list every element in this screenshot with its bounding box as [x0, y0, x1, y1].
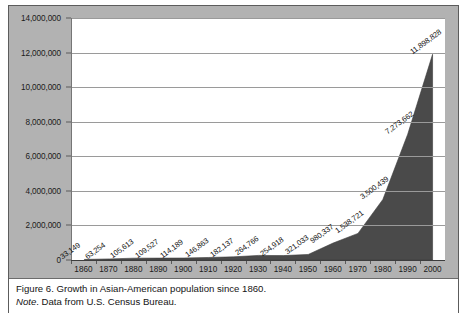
gridline: [72, 122, 445, 123]
x-axis-tick-mark: [221, 261, 222, 264]
note-text: . Data from U.S. Census Bureau.: [36, 296, 176, 307]
y-axis-tick-label: 2,000,000: [25, 221, 61, 230]
x-axis-tick-label: 2000: [423, 265, 441, 274]
x-axis-tick-label: 1890: [149, 265, 167, 274]
x-axis-tick-mark: [345, 261, 346, 264]
x-axis-tick-label: 1910: [199, 265, 217, 274]
x-axis-tick-mark: [146, 261, 147, 264]
gridline: [72, 225, 445, 226]
y-axis: 14,000,00012,000,00010,000,0008,000,0006…: [9, 6, 71, 279]
x-axis-tick-label: 1860: [74, 265, 92, 274]
plot-area: [71, 18, 445, 260]
y-axis-tick-label: 6,000,000: [25, 152, 61, 161]
x-axis-tick-label: 1990: [398, 265, 416, 274]
x-axis-tick-mark: [370, 261, 371, 264]
figure-caption: Figure 6. Growth in Asian-American popul…: [9, 279, 458, 313]
y-axis-tick-label: 0: [57, 256, 61, 265]
gridline: [72, 156, 445, 157]
x-axis-tick-label: 1950: [299, 265, 317, 274]
y-axis-tick-label: 8,000,000: [25, 117, 61, 126]
gridline: [72, 18, 445, 19]
x-axis-tick-label: 1920: [224, 265, 242, 274]
x-axis-tick-mark: [96, 261, 97, 264]
x-axis-tick-mark: [171, 261, 172, 264]
y-axis-tick-label: 4,000,000: [25, 186, 61, 195]
y-axis-tick-label: 12,000,000: [21, 48, 61, 57]
x-axis-tick-label: 1960: [324, 265, 342, 274]
x-axis-tick-label: 1930: [249, 265, 267, 274]
x-axis: 1860187018801890190019101920193019401950…: [71, 261, 445, 279]
y-axis-tick-label: 14,000,000: [21, 14, 61, 23]
x-axis-tick-mark: [270, 261, 271, 264]
note-label: Note: [16, 296, 36, 307]
x-axis-tick-label: 1970: [349, 265, 367, 274]
x-axis-tick-mark: [420, 261, 421, 264]
x-axis-tick-mark: [320, 261, 321, 264]
x-axis-tick-label: 1900: [174, 265, 192, 274]
chart-plate: 14,000,00012,000,00010,000,0008,000,0006…: [9, 6, 458, 279]
gridline: [72, 53, 445, 54]
x-axis-tick-mark: [295, 261, 296, 264]
x-axis-tick-label: 1870: [99, 265, 117, 274]
area-series: [72, 18, 445, 260]
caption-line-1: Figure 6. Growth in Asian-American popul…: [16, 283, 458, 296]
x-axis-tick-mark: [196, 261, 197, 264]
x-axis-tick-mark: [71, 261, 72, 264]
gridline: [72, 87, 445, 88]
x-axis-tick-mark: [395, 261, 396, 264]
figure-frame: 14,000,00012,000,00010,000,0008,000,0006…: [8, 5, 459, 313]
caption-line-2: Note. Data from U.S. Census Bureau.: [16, 296, 458, 309]
gridline: [72, 191, 445, 192]
x-axis-tick-label: 1880: [124, 265, 142, 274]
x-axis-tick-label: 1940: [274, 265, 292, 274]
x-axis-tick-label: 1980: [374, 265, 392, 274]
x-axis-tick-mark: [121, 261, 122, 264]
x-axis-tick-mark: [246, 261, 247, 264]
y-axis-tick-label: 10,000,000: [21, 83, 61, 92]
